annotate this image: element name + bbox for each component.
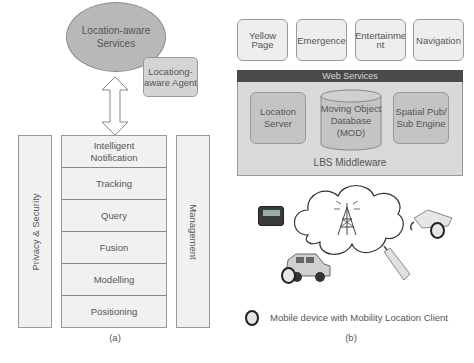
mod-label: Moving Object Database (MOD) — [315, 103, 387, 139]
caption-a: (a) — [100, 332, 130, 344]
app-emergence: Emergence — [296, 19, 347, 61]
legend-marker-icon — [245, 310, 259, 326]
layer-label: Positioning — [91, 306, 137, 318]
location-aware-agent-node: Locationg- aware Agent — [143, 57, 198, 97]
app-navigation: Navigation — [413, 19, 464, 61]
layer-fusion: Fusion — [62, 232, 166, 264]
layer-intelligent-notification: Intelligent Notification — [62, 136, 166, 168]
layer-label: Notification — [91, 152, 138, 164]
caption-b: (b) — [336, 332, 366, 344]
component-label: Sub Engine — [395, 118, 446, 130]
layer-label: Modelling — [94, 274, 135, 286]
layer-stack: Intelligent Notification Tracking Query … — [61, 135, 167, 328]
ellipse-label-1: Location-aware — [82, 24, 150, 37]
app-label: Yellow Page — [238, 31, 287, 49]
layer-modelling: Modelling — [62, 264, 166, 296]
bidirectional-arrow-icon — [100, 76, 130, 136]
app-label: Navigation — [416, 36, 461, 45]
mobility-client-marker — [430, 222, 445, 239]
agent-label-1: Locationg- — [144, 66, 197, 77]
privacy-security-label: Privacy & Security — [30, 193, 41, 270]
layer-query: Query — [62, 200, 166, 232]
app-entertainment: Entertainme nt — [355, 19, 406, 61]
antenna-tower-icon — [332, 201, 362, 237]
web-services-bar: Web Services — [237, 70, 463, 82]
privacy-security-bar: Privacy & Security — [18, 135, 52, 328]
component-label: Server — [260, 118, 296, 130]
pager-device-icon — [258, 206, 284, 226]
layer-label: Fusion — [100, 242, 129, 254]
layer-label: Query — [101, 210, 127, 222]
management-bar: Management — [176, 135, 210, 328]
layer-positioning: Positioning — [62, 296, 166, 327]
management-label: Management — [188, 204, 199, 259]
layer-label: Tracking — [96, 178, 132, 190]
ellipse-label-2: Services — [82, 37, 150, 50]
mobility-client-marker — [281, 267, 296, 284]
agent-label-2: aware Agent — [144, 77, 197, 88]
spatial-pubsub-box: Spatial Pub/ Sub Engine — [393, 92, 449, 144]
layer-label: Intelligent — [91, 140, 138, 152]
legend-text: Mobile device with Mobility Location Cli… — [270, 312, 448, 323]
lbs-middleware-label: LBS Middleware — [237, 157, 463, 169]
component-label: Location — [260, 106, 296, 118]
component-label: Moving Object — [315, 103, 387, 115]
component-label: (MOD) — [315, 127, 387, 139]
component-label: Database — [315, 115, 387, 127]
app-label: Emergence — [297, 36, 346, 45]
panel-a: Location-aware Services Locationg- aware… — [0, 0, 237, 363]
app-label: nt — [377, 40, 385, 49]
location-server-box: Location Server — [250, 92, 306, 144]
mobile-phone-device-icon — [382, 246, 412, 282]
layer-tracking: Tracking — [62, 168, 166, 200]
app-yellow-page: Yellow Page — [237, 19, 288, 61]
component-label: Spatial Pub/ — [395, 106, 446, 118]
